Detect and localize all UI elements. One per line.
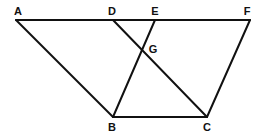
point-label-c: C: [203, 121, 211, 133]
segment-eb: [113, 20, 155, 117]
point-label-a: A: [14, 5, 22, 17]
labels-group: ADEFGBC: [14, 5, 251, 133]
geometry-figure: ADEFGBC: [0, 0, 263, 137]
segments-group: [16, 20, 250, 117]
point-label-e: E: [151, 5, 158, 17]
point-label-g: G: [149, 43, 158, 55]
point-label-f: F: [244, 5, 251, 17]
point-label-b: B: [108, 121, 116, 133]
segment-ab: [16, 20, 113, 117]
point-label-d: D: [108, 5, 116, 17]
segment-cf: [207, 20, 250, 117]
segment-dc: [113, 20, 207, 117]
